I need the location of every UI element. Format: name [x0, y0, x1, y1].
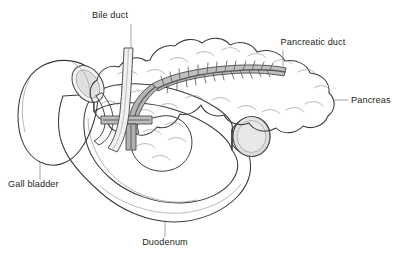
label-pancreas: Pancreas	[351, 95, 391, 105]
duodenum-lumen-inner	[237, 121, 266, 153]
label-bile-duct: Bile duct	[92, 10, 128, 20]
duodenum-body	[59, 94, 251, 222]
label-group: Bile duct Pancreatic duct Pancreas Gall …	[8, 10, 391, 247]
gall-bladder-shade-1	[22, 78, 30, 132]
duodenum-structure	[59, 84, 271, 222]
duodenum-lower-shadow	[100, 184, 241, 213]
label-pancreatic-duct: Pancreatic duct	[281, 37, 346, 47]
label-gall-bladder: Gall bladder	[8, 179, 59, 189]
anatomy-figure: Bile duct Pancreatic duct Pancreas Gall …	[0, 0, 398, 261]
label-duodenum: Duodenum	[142, 237, 188, 247]
pancreatic-duct-sheath	[152, 65, 286, 91]
